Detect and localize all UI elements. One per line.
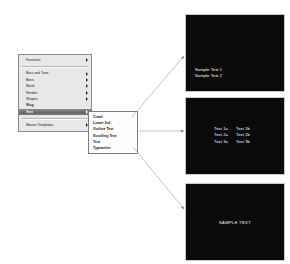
- preview-grid-cell: Text 3b: [236, 139, 256, 145]
- preview-scrolling-text: Text 1a Text 1b Text 2a Text 2b Text 3a …: [185, 97, 285, 175]
- preview-line-1: Sample Text 1: [195, 67, 222, 73]
- diagram-canvas: Favorites Bars and Tone Boris Matte Rend…: [0, 0, 290, 264]
- preview-grid-cell: Text 3a: [214, 139, 236, 145]
- preview-text-caption: SAMPLE TEXT: [186, 220, 284, 225]
- preview-line-2: Sample Text 2: [195, 73, 222, 79]
- preview-scrolling-grid: Text 1a Text 1b Text 2a Text 2b Text 3a …: [186, 126, 284, 145]
- arrow-to-text: [133, 147, 184, 209]
- preview-lower-third: Sample Text 1 Sample Text 2: [185, 14, 285, 92]
- preview-lower-third-body: Sample Text 1 Sample Text 2: [195, 67, 222, 79]
- arrow-to-lower-third: [132, 56, 184, 117]
- preview-grid-row: Text 3a Text 3b: [214, 139, 256, 145]
- preview-text: SAMPLE TEXT: [185, 183, 285, 261]
